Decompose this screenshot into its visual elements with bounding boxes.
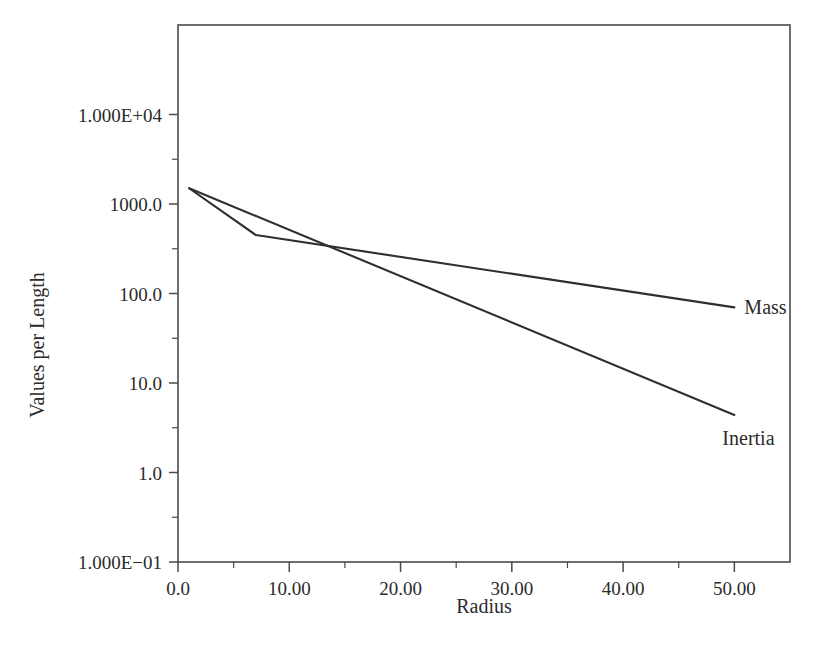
x-tick-label: 0.0 (166, 578, 190, 599)
series-label-inertia: Inertia (722, 427, 774, 449)
y-axis-title: Values per Length (26, 272, 49, 418)
y-tick-label: 1000.0 (110, 194, 162, 215)
y-tick-label: 10.0 (129, 373, 162, 394)
y-tick-label: 100.0 (119, 284, 162, 305)
line-chart: 1.000E+041000.0100.010.01.01.000E−01 0.0… (0, 0, 832, 655)
series-label-mass: Mass (744, 296, 786, 318)
x-axis-title: Radius (456, 595, 512, 617)
x-tick-label: 20.00 (379, 578, 422, 599)
y-tick-label: 1.0 (138, 463, 162, 484)
x-tick-label: 10.00 (268, 578, 311, 599)
x-tick-label: 50.00 (713, 578, 756, 599)
x-tick-label: 40.00 (602, 578, 645, 599)
chart-container: 1.000E+041000.0100.010.01.01.000E−01 0.0… (0, 0, 832, 655)
y-tick-label: 1.000E+04 (78, 105, 163, 126)
y-tick-label: 1.000E−01 (78, 552, 162, 573)
